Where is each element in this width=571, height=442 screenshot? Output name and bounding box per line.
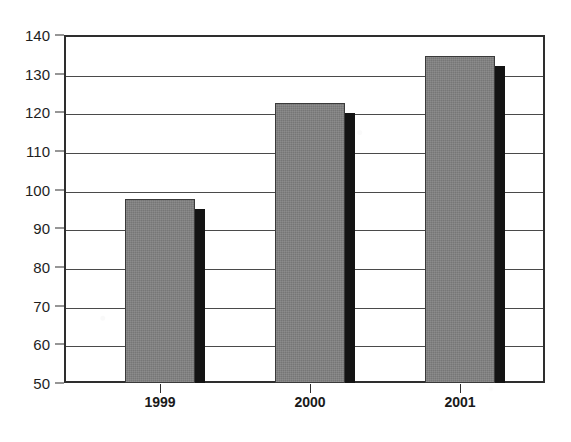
y-axis-tick-label: 110 bbox=[4, 143, 50, 160]
y-axis-tick-mark bbox=[55, 344, 64, 345]
y-axis-tick-mark bbox=[55, 73, 64, 74]
y-axis-tick-label: 70 bbox=[4, 297, 50, 314]
x-axis-tick-label-2000: 2000 bbox=[265, 394, 355, 410]
bar-chart-figure: (in millions) 50607080901001101201301401… bbox=[0, 0, 571, 442]
chart-title-clip: (in millions) bbox=[0, 0, 571, 16]
y-axis-tick-mark bbox=[55, 228, 64, 229]
bar-2000 bbox=[275, 103, 345, 383]
y-axis-tick-mark bbox=[55, 112, 64, 113]
y-axis-tick-label: 120 bbox=[4, 104, 50, 121]
y-axis-tick-label: 60 bbox=[4, 336, 50, 353]
y-axis-tick-mark bbox=[55, 189, 64, 190]
y-axis-tick-label: 140 bbox=[4, 27, 50, 44]
y-axis-tick-mark bbox=[55, 267, 64, 268]
y-axis-tick-label: 90 bbox=[4, 220, 50, 237]
x-axis-tick-label-1999: 1999 bbox=[115, 394, 205, 410]
y-axis-tick-mark bbox=[55, 305, 64, 306]
y-axis-tick-label: 100 bbox=[4, 181, 50, 198]
y-axis-tick-label: 130 bbox=[4, 65, 50, 82]
y-axis-tick-label: 50 bbox=[4, 375, 50, 392]
x-axis-tick-label-2001: 2001 bbox=[415, 394, 505, 410]
y-axis-tick-mark bbox=[55, 383, 64, 384]
x-axis-tick-mark bbox=[460, 384, 461, 393]
y-axis-tick-label: 80 bbox=[4, 259, 50, 276]
bar-1999 bbox=[125, 199, 195, 383]
y-axis-tick-mark bbox=[55, 151, 64, 152]
y-axis-tick-mark bbox=[55, 35, 64, 36]
x-axis-tick-mark bbox=[310, 384, 311, 393]
bar-2001 bbox=[425, 56, 495, 383]
x-axis-tick-mark bbox=[160, 384, 161, 393]
